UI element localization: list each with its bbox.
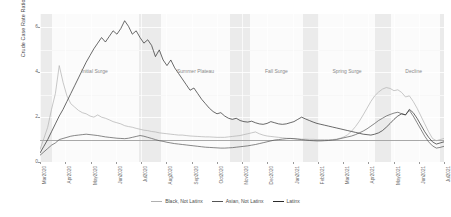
- x-axis-tick-label: Jun2021: [421, 166, 426, 184]
- phase-label: Spring Surge: [332, 68, 361, 74]
- y-axis-tick-label: 4: [22, 69, 38, 74]
- x-axis-tick-mark: [394, 162, 395, 164]
- x-axis-tick-mark: [217, 162, 218, 164]
- x-axis-tick-label: Jul2020: [143, 166, 148, 182]
- x-axis-tick-mark: [65, 162, 66, 164]
- x-axis-tick-label: Mar2021: [345, 166, 350, 184]
- x-axis-tick-mark: [116, 162, 117, 164]
- legend-color-swatch: [151, 201, 162, 202]
- x-axis-tick-mark: [318, 162, 319, 164]
- x-axis-tick-label: May2021: [396, 166, 401, 185]
- x-axis-tick-label: Jul2021: [446, 166, 451, 182]
- x-axis-tick-mark: [141, 162, 142, 164]
- x-axis-tick-label: Apr2021: [370, 166, 375, 183]
- x-axis-tick-label: Feb2021: [320, 166, 325, 184]
- x-axis-tick-label: Jan2021: [295, 166, 300, 184]
- x-axis-tick-mark: [192, 162, 193, 164]
- x-axis-tick-mark: [444, 162, 445, 164]
- legend-item[interactable]: Asian, Not Latinx: [212, 198, 264, 204]
- x-axis-tick-mark: [91, 162, 92, 164]
- legend-color-swatch: [212, 201, 223, 202]
- chart-figure: Crude Case Rate Ratios 0246 Initial Surg…: [0, 0, 451, 217]
- plot-panel: Initial SurgeSummer PlateauFall SurgeSpr…: [40, 14, 444, 162]
- x-axis-tick-label: Dec2020: [269, 166, 274, 184]
- x-axis-tick-label: May2020: [93, 166, 98, 185]
- x-axis-tick-label: Sep2020: [194, 166, 199, 184]
- y-axis-tick-label: 2: [22, 114, 38, 119]
- series-lines: [40, 14, 444, 162]
- phase-label: Initial Surge: [81, 68, 107, 74]
- x-axis-tick-label: Aug2020: [168, 166, 173, 184]
- y-axis-tick-label: 0: [22, 159, 38, 164]
- x-axis-tick-mark: [368, 162, 369, 164]
- x-axis-tick-mark: [293, 162, 294, 164]
- y-axis-tick-labels: 0246: [20, 0, 38, 217]
- legend-item[interactable]: Black, Not Latinx: [151, 198, 203, 204]
- phase-label: Decline: [405, 68, 422, 74]
- legend-label: Latinx: [287, 198, 300, 204]
- x-axis-tick-mark: [343, 162, 344, 164]
- x-axis-tick-label: Mar2020: [42, 166, 47, 184]
- phase-label: Fall Surge: [265, 68, 288, 74]
- y-axis-tick-label: 6: [22, 24, 38, 29]
- legend-item[interactable]: Latinx: [273, 198, 300, 204]
- series-line: [40, 110, 444, 155]
- legend-label: Black, Not Latinx: [165, 198, 203, 204]
- series-line: [40, 66, 444, 150]
- series-line: [40, 21, 444, 153]
- x-axis-tick-mark: [40, 162, 41, 164]
- x-axis-tick-labels: Mar2020Apr2020May2020Jun2020Jul2020Aug20…: [40, 162, 444, 200]
- x-axis-tick-label: Apr2020: [67, 166, 72, 183]
- phase-label: Summer Plateau: [177, 68, 214, 74]
- x-axis-tick-mark: [166, 162, 167, 164]
- x-axis-tick-mark: [242, 162, 243, 164]
- legend-color-swatch: [273, 201, 284, 202]
- x-axis-tick-mark: [267, 162, 268, 164]
- x-axis-tick-label: Jun2020: [118, 166, 123, 184]
- legend-label: Asian, Not Latinx: [226, 198, 264, 204]
- x-axis-tick-label: Oct2020: [219, 166, 224, 183]
- x-axis-tick-label: Nov2020: [244, 166, 249, 184]
- chart-legend: Black, Not LatinxAsian, Not LatinxLatinx: [0, 198, 451, 204]
- x-axis-tick-mark: [419, 162, 420, 164]
